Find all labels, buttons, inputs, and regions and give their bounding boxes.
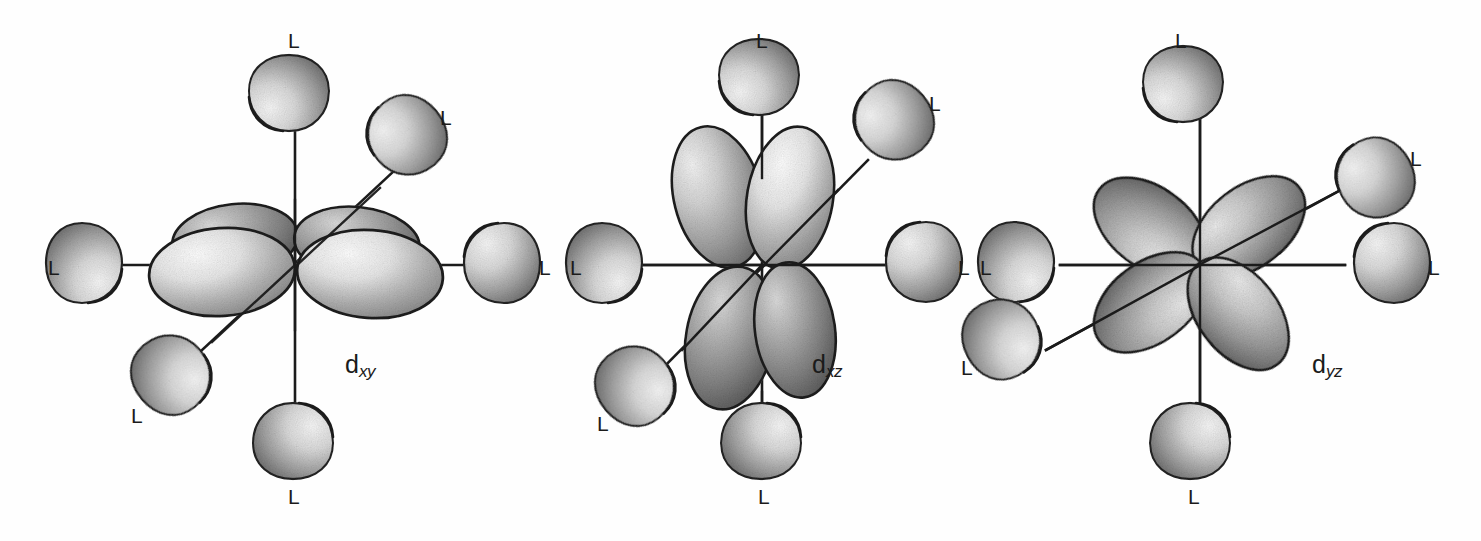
ligand-label-dyz-bottom: L [1188, 486, 1200, 507]
ligand-label-dyz-right: L [1428, 257, 1440, 278]
ligand-label-dxy-upper-right: L [440, 107, 452, 128]
figure-canvas: L L L L L L dxy L L L L L L dxz L L L L … [0, 0, 1481, 541]
ligand-label-dxz-right: L [958, 257, 970, 278]
orbital-symbol-dxz: d [812, 350, 826, 378]
ligand-bottom [721, 403, 801, 479]
orbital-symbol-dyz: d [1312, 350, 1326, 378]
orbital-symbol-dxy: d [345, 350, 359, 378]
orbital-subscript-dxz: xz [826, 362, 842, 381]
orbital-subscript-dxy: xy [359, 362, 375, 381]
ligand-label-dxy-bottom: L [288, 486, 300, 507]
orbital-label-dxz: dxz [812, 352, 842, 380]
ligand-label-dyz-left: L [980, 257, 992, 278]
ligand-label-dxz-lower-left: L [597, 413, 609, 434]
ligand-label-dxz-top: L [756, 30, 768, 51]
ligand-label-dxz-left: L [570, 257, 582, 278]
ligand-label-dxy-left: L [48, 257, 60, 278]
orbital-label-dyz: dyz [1312, 352, 1342, 380]
ligand-label-dyz-top: L [1175, 30, 1187, 51]
ligand-label-dxy-right: L [539, 257, 551, 278]
ligand-label-dxz-bottom: L [758, 486, 770, 507]
ligand-label-dyz-lower-left: L [961, 357, 973, 378]
ligand-label-dxy-top: L [288, 30, 300, 51]
orbital-label-dxy: dxy [345, 352, 375, 380]
ligand-right [464, 223, 540, 303]
ligand-label-dyz-upper-right: L [1410, 148, 1422, 169]
ligand-label-dxy-lower-left: L [131, 405, 143, 426]
ligand-top [249, 55, 329, 131]
ligand-bottom [1150, 403, 1230, 479]
ligand-bottom [253, 403, 333, 479]
ligand-right [886, 222, 962, 302]
ligand-label-dxz-upper-right: L [929, 93, 941, 114]
ligand-top [1143, 46, 1223, 122]
ligand-right [1354, 223, 1430, 303]
orbital-diagram-svg [0, 0, 1481, 541]
orbital-subscript-dyz: yz [1326, 362, 1342, 381]
